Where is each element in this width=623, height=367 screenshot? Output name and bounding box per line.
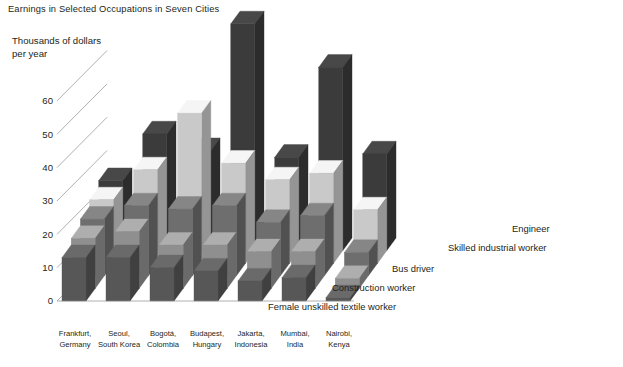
x-category-label-0: Frankfurt, — [59, 329, 92, 338]
bar-front-face — [194, 271, 218, 301]
legend-label-engineer[interactable]: Engineer — [512, 223, 550, 234]
earnings-3d-bar-chart: Earnings in Selected Occupations in Seve… — [0, 0, 623, 367]
y-axis-tick-labels: 0102030405060 — [42, 95, 53, 306]
gridline-50 — [57, 84, 107, 134]
x-category-label-4: Jakarta, — [237, 329, 264, 338]
x-category-label-6: Kenya — [328, 340, 350, 349]
bar — [106, 245, 139, 301]
x-category-label-5: India — [287, 340, 304, 349]
bar-front-face — [150, 268, 174, 301]
bar-front-face — [62, 258, 86, 301]
x-category-label-1: Seoul, — [108, 329, 130, 338]
x-category-label-2: Colombia — [147, 340, 180, 349]
x-category-label-1: South Korea — [98, 340, 141, 349]
legend-label-bus-driver[interactable]: Bus driver — [392, 263, 434, 274]
bar-side-face — [324, 203, 333, 276]
x-category-label-3: Hungary — [193, 340, 222, 349]
bar-front-face — [238, 281, 262, 301]
bar — [282, 265, 315, 301]
y-tick-30: 30 — [42, 195, 53, 206]
bars-group — [57, 11, 396, 301]
y-tick-40: 40 — [42, 162, 53, 173]
bar — [62, 245, 95, 301]
bar-side-face — [334, 161, 343, 264]
gridline-60 — [57, 51, 107, 101]
y-axis-label-line1: Thousands of dollars — [12, 35, 101, 46]
bar-side-face — [387, 141, 396, 250]
x-category-label-3: Budapest, — [190, 329, 224, 338]
y-tick-0: 0 — [48, 295, 53, 306]
bar — [238, 268, 271, 301]
legend-label-construction-worker[interactable]: Construction worker — [332, 282, 415, 293]
x-axis-category-labels: Frankfurt,GermanySeoul,South KoreaBogotá… — [59, 329, 352, 349]
bar-side-face — [139, 219, 148, 288]
y-tick-50: 50 — [42, 129, 53, 140]
bar-front-face — [282, 278, 306, 301]
x-category-label-5: Mumbai, — [280, 329, 309, 338]
gridline-40 — [57, 117, 107, 167]
y-axis-label-line2: per year — [12, 48, 48, 59]
y-tick-20: 20 — [42, 229, 53, 240]
bar-front-face — [106, 258, 130, 301]
x-category-label-0: Germany — [59, 340, 90, 349]
x-category-label-6: Nairobi, — [326, 329, 352, 338]
x-category-label-2: Bogotá, — [150, 329, 176, 338]
bar — [194, 258, 227, 301]
y-tick-10: 10 — [42, 262, 53, 273]
chart-title: Earnings in Selected Occupations in Seve… — [8, 4, 220, 14]
bar-side-face — [236, 193, 245, 276]
x-category-label-4: Indonesia — [235, 340, 269, 349]
legend-label-female-unskilled-textile-worker[interactable]: Female unskilled textile worker — [268, 301, 396, 312]
legend-label-skilled-industrial-worker[interactable]: Skilled industrial worker — [448, 242, 546, 253]
chart-container: Earnings in Selected Occupations in Seve… — [0, 0, 623, 367]
bar-side-face — [343, 55, 352, 251]
y-tick-60: 60 — [42, 95, 53, 106]
bar — [150, 255, 183, 301]
